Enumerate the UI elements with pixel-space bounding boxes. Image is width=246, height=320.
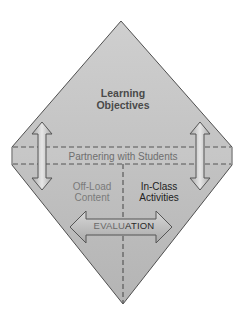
learning-objectives-label: Learning Objectives: [71, 88, 175, 111]
in-class-activities-label: In-Class Activities: [127, 181, 191, 203]
off-load-content-line1: Off-Load: [60, 181, 124, 192]
learning-objectives-line1: Learning: [71, 88, 175, 100]
off-load-content-line2: Content: [60, 192, 124, 203]
in-class-activities-line2: Activities: [127, 192, 191, 203]
learning-objectives-line2: Objectives: [71, 100, 175, 112]
evaluation-label-left: EVALU: [94, 220, 125, 231]
off-load-content-label: Off-Load Content: [60, 181, 124, 203]
evaluation-label: EVALUATION: [88, 221, 160, 231]
partnering-with-students-label: Partnering with Students: [40, 151, 206, 162]
in-class-activities-line1: In-Class: [127, 181, 191, 192]
evaluation-label-right: ATION: [125, 220, 154, 231]
